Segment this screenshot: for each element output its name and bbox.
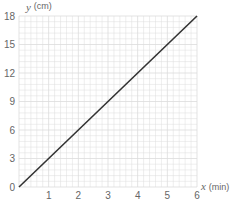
x-axis-label: x (min) bbox=[200, 180, 229, 192]
y-tick-label: 3 bbox=[9, 153, 15, 164]
x-tick-label: 5 bbox=[165, 190, 171, 201]
y-tick-label: 9 bbox=[9, 96, 15, 107]
line-chart: 0369121518123456 y (cm) x (min) bbox=[0, 0, 233, 201]
chart-canvas: 0369121518123456 y (cm) x (min) bbox=[0, 0, 233, 201]
x-tick-label: 3 bbox=[105, 190, 111, 201]
x-tick-label: 6 bbox=[194, 190, 200, 201]
x-tick-label: 2 bbox=[76, 190, 82, 201]
y-axis-label: y (cm) bbox=[25, 1, 52, 13]
y-tick-label: 0 bbox=[9, 182, 15, 193]
axis-labels: y (cm) x (min) bbox=[25, 1, 229, 192]
y-tick-label: 6 bbox=[9, 125, 15, 136]
y-tick-label: 15 bbox=[4, 39, 16, 50]
y-tick-label: 18 bbox=[4, 11, 16, 22]
x-tick-label: 1 bbox=[46, 190, 52, 201]
y-tick-label: 12 bbox=[4, 68, 16, 79]
x-tick-label: 4 bbox=[135, 190, 141, 201]
